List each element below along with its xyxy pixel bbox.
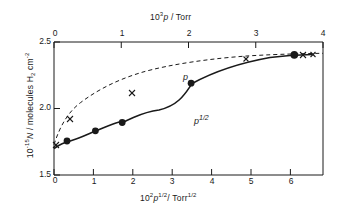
y-axis-title-subscript: 2: [30, 72, 36, 76]
bottom-tick-label-1: 1: [88, 176, 100, 186]
y-axis-title-units: / molecules H: [25, 76, 35, 133]
top-tick-label-1: 1: [116, 28, 128, 38]
series-p-annotation: p: [183, 72, 188, 82]
bottom-axis-title-symbol-exponent: 1/2: [158, 192, 167, 198]
bottom-axis-title-base: 10: [140, 193, 150, 203]
top-axis-title: 103p / Torr: [150, 11, 191, 22]
series-p-half-annotation: p1/2: [194, 114, 209, 126]
series-p-half-annotation-exponent: 1/2: [199, 114, 209, 121]
bottom-axis-ticks: [54, 169, 290, 175]
y-axis-title-exponent: -15: [24, 139, 30, 148]
top-tick-label-3: 3: [250, 28, 262, 38]
bottom-axis-title: 102p1/2/ Torr1/2: [140, 192, 197, 203]
top-tick-label-4: 4: [317, 28, 329, 38]
bottom-tick-label-2: 2: [127, 176, 139, 186]
top-axis-title-units: / Torr: [168, 12, 191, 22]
bottom-tick-label-3: 3: [166, 176, 178, 186]
y-axis-title-tail-exponent: -2: [24, 52, 30, 58]
axis-frame: [54, 42, 323, 175]
bottom-tick-label-4: 4: [206, 176, 218, 186]
bottom-tick-label-6: 6: [285, 176, 297, 186]
top-axis-title-base: 10: [150, 12, 160, 22]
series-p-half-curve: [54, 55, 312, 149]
figure-container: 0 1 2 3 4 5 6 0 1 2 3 4 2.5 2.0 1.5 103p…: [0, 0, 342, 217]
bottom-axis-title-units: / Torr: [167, 193, 187, 203]
bottom-axis-title-units-exponent: 1/2: [188, 192, 197, 198]
y-axis-title-base: 10: [25, 148, 35, 158]
series-p-markers: [53, 52, 316, 148]
top-axis-ticks: [54, 42, 323, 48]
bottom-tick-label-5: 5: [245, 176, 257, 186]
y-axis-title: 10-15N / molecules H2 cm-2: [24, 25, 37, 185]
top-tick-label-2: 2: [183, 28, 195, 38]
y-axis-title-tail: cm: [25, 58, 35, 72]
y-axis-title-symbol: N: [25, 133, 35, 139]
y-axis-ticks: [54, 42, 60, 175]
